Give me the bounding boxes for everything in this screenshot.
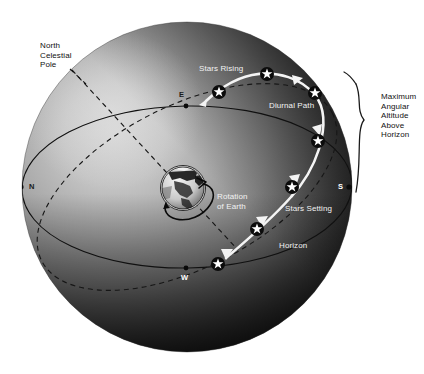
cardinal-label-east: E (179, 90, 184, 99)
cardinal-label-west: W (181, 273, 188, 282)
star-marker (285, 180, 299, 194)
star-marker (212, 85, 226, 99)
cardinal-label-south: S (338, 182, 343, 191)
cardinal-dot-west (184, 266, 189, 271)
cardinal-label-north: N (29, 182, 34, 191)
cardinal-dot-north (18, 184, 23, 189)
cardinal-dot-south (346, 184, 351, 189)
star-marker (308, 86, 322, 100)
star-marker (211, 257, 225, 271)
celestial-sphere-diagram: North Celestial Pole Stars Rising Diurna… (0, 0, 424, 374)
cardinal-dot-east (184, 104, 189, 109)
diagram-canvas (0, 0, 424, 374)
star-marker (250, 222, 264, 236)
star-marker (260, 67, 274, 81)
star-marker (311, 134, 325, 148)
